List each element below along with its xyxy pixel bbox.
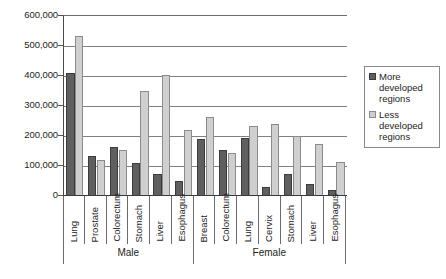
bar [241, 138, 249, 197]
legend-label-less-developed: Lessdevelopedregions [379, 109, 423, 142]
y-axis-tick-label: 600,000 [2, 10, 58, 20]
category-label: Liver [155, 221, 165, 242]
category-label: Cervix [264, 215, 274, 242]
category-label-cell: Prostate [85, 196, 107, 244]
legend-label-more-developed: Moredevelopedregions [379, 71, 423, 104]
bar [206, 117, 214, 197]
category-label: Esophagus [177, 194, 187, 242]
category-label-cell: Liver [302, 196, 324, 244]
bar [184, 130, 192, 196]
y-axis-tick-mark [58, 15, 63, 16]
category-label-cell: Stomach [128, 196, 150, 244]
y-axis-tick-mark [58, 195, 63, 196]
category-label-cell: Esophagus [172, 196, 194, 244]
bar [97, 160, 105, 196]
y-axis-tick-label: 0 [2, 190, 58, 200]
y-axis-tick-mark [58, 135, 63, 136]
bar [119, 150, 127, 196]
legend-item-less-developed: Lessdevelopedregions [369, 109, 435, 142]
y-axis-tick-label: 400,000 [2, 70, 58, 80]
group-label: Female [194, 247, 345, 258]
bar [66, 73, 74, 196]
group-label: Male [64, 247, 193, 258]
category-label: Lung [69, 221, 79, 242]
category-label: Esophagus [330, 194, 340, 242]
gridline [64, 76, 347, 77]
category-label: Prostate [90, 207, 100, 242]
category-label: Stomach [134, 205, 144, 243]
bar [249, 126, 257, 197]
bar [162, 75, 170, 197]
y-axis-tick-label: 500,000 [2, 40, 58, 50]
y-axis: 600,000500,000400,000300,000200,000100,0… [0, 0, 58, 279]
category-label-cell: Lung [63, 196, 85, 244]
category-label-cell: Liver [150, 196, 172, 244]
bar [75, 36, 83, 197]
legend-swatch-more-developed-icon [369, 73, 376, 80]
category-label: Liver [308, 221, 318, 242]
bar [153, 174, 161, 197]
bar [219, 150, 227, 197]
y-axis-tick-label: 300,000 [2, 100, 58, 110]
category-label-cell: Colorectum [215, 196, 237, 244]
bar [228, 153, 236, 197]
category-label: Breast [199, 215, 209, 242]
y-axis-tick-label: 200,000 [2, 130, 58, 140]
category-label-cell: Cervix [259, 196, 281, 244]
chart-legend: Moredevelopedregions Lessdevelopedregion… [364, 66, 440, 148]
legend-item-more-developed: Moredevelopedregions [369, 71, 435, 104]
gridline [64, 106, 347, 107]
bar [140, 91, 148, 196]
category-label: Stomach [286, 205, 296, 243]
bar [271, 124, 279, 196]
bar [284, 174, 292, 197]
bar [110, 147, 118, 197]
category-label-cell: Colorectum [107, 196, 129, 244]
y-axis-tick-label: 100,000 [2, 160, 58, 170]
category-label-cell: Lung [237, 196, 259, 244]
category-label-cell: Breast [194, 196, 216, 244]
category-label: Colorectum [112, 193, 122, 242]
bar [336, 162, 344, 196]
y-axis-tick-mark [58, 105, 63, 106]
gridline [64, 46, 347, 47]
group-label-cell: Female [194, 244, 346, 264]
bar [197, 139, 205, 196]
bar-chart: 600,000500,000400,000300,000200,000100,0… [0, 0, 446, 279]
y-axis-tick-mark [58, 75, 63, 76]
group-label-cell: Male [63, 244, 194, 264]
category-label-cell: Stomach [281, 196, 303, 244]
group-label-band: MaleFemale [63, 244, 347, 264]
y-axis-tick-mark [58, 45, 63, 46]
category-label-band: LungProstateColorectumStomachLiverEsopha… [63, 196, 347, 244]
bar [88, 156, 96, 197]
legend-swatch-less-developed-icon [369, 111, 376, 118]
category-label-cell: Esophagus [324, 196, 346, 244]
category-label: Lung [243, 221, 253, 242]
y-axis-tick-mark [58, 165, 63, 166]
bar [315, 144, 323, 197]
bar [293, 136, 301, 196]
category-label: Colorectum [221, 193, 231, 242]
plot-area [63, 15, 347, 196]
bar [132, 163, 140, 196]
